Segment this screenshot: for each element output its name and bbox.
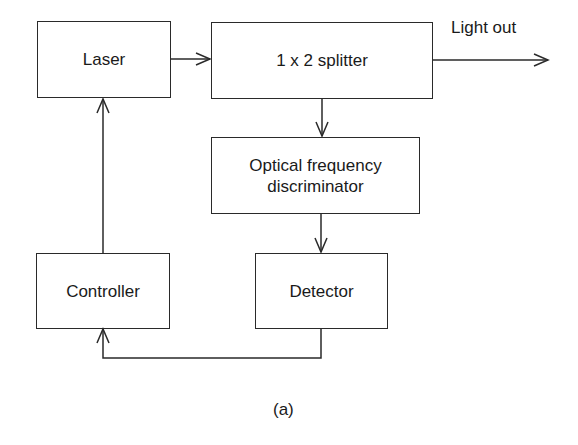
figure-caption: (a)	[273, 400, 294, 420]
discriminator-label-line2: discriminator	[267, 176, 363, 197]
arrow-detector-to-controller	[103, 329, 321, 358]
controller-label: Controller	[66, 281, 140, 302]
controller-block: Controller	[36, 253, 170, 329]
laser-block: Laser	[37, 21, 171, 98]
laser-label: Laser	[83, 49, 126, 70]
detector-block: Detector	[255, 253, 388, 329]
splitter-block: 1 x 2 splitter	[211, 22, 433, 99]
splitter-label: 1 x 2 splitter	[276, 50, 368, 71]
discriminator-label-line1: Optical frequency	[249, 155, 381, 176]
detector-label: Detector	[289, 281, 353, 302]
discriminator-block: Optical frequency discriminator	[211, 137, 420, 214]
light-out-label: Light out	[451, 18, 516, 38]
